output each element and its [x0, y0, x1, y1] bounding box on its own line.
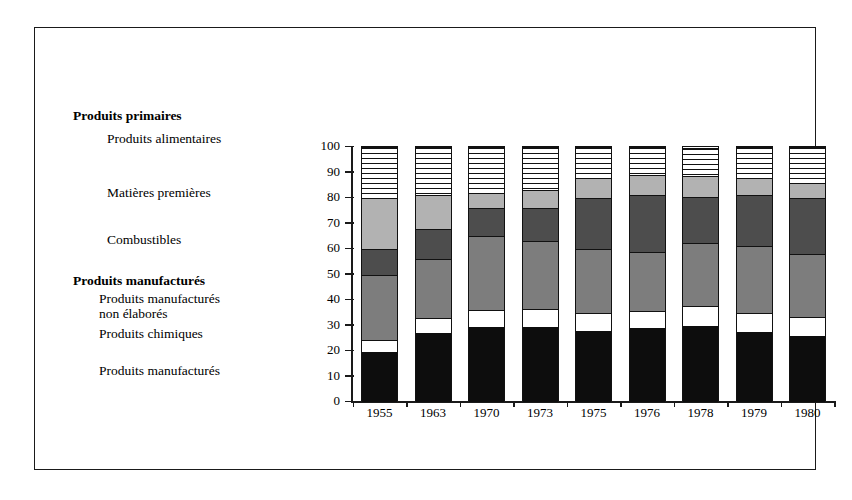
bar-segment-1975-2	[576, 249, 611, 313]
y-axis-tick-label: 60	[306, 241, 340, 254]
bar-segment-1955-2	[362, 275, 397, 340]
bar-segment-1970-5	[469, 147, 504, 193]
y-axis-tick	[345, 299, 354, 301]
bar-segment-1978-0	[683, 326, 718, 403]
legend-item-2: Matières premières	[107, 185, 211, 200]
bar-segment-1980-5	[790, 147, 825, 183]
y-axis-tick-label: 30	[306, 318, 340, 331]
y-axis-tick	[345, 350, 354, 352]
bar-segment-1963-5	[416, 147, 451, 195]
chart-frame: Produits primairesProduits alimentairesM…	[34, 27, 816, 470]
y-axis-tick-label: 10	[306, 369, 340, 382]
bar-segment-1978-1	[683, 306, 718, 325]
bar-segment-1979-1	[737, 313, 772, 332]
legend-item-8: Produits manufacturés	[99, 363, 220, 378]
bar-segment-1979-4	[737, 178, 772, 196]
bar-segment-1975-5	[576, 147, 611, 178]
bar-segment-1978-4	[683, 176, 718, 196]
bar-segment-1975-4	[576, 178, 611, 198]
x-axis-label-1973: 1973	[510, 405, 570, 421]
bar-segment-1973-1	[523, 309, 558, 327]
y-axis-tick	[345, 248, 354, 250]
bar-segment-1973-3	[523, 208, 558, 241]
bar-segment-1976-3	[630, 195, 665, 251]
bar-1980[interactable]	[789, 146, 826, 401]
bar-segment-1955-1	[362, 340, 397, 353]
y-axis-tick-label: 0	[306, 394, 340, 407]
bar-segment-1973-2	[523, 241, 558, 309]
bar-segment-1980-2	[790, 254, 825, 316]
bar-segment-1976-5	[630, 147, 665, 175]
bar-segment-1970-4	[469, 193, 504, 208]
bar-segment-1979-0	[737, 332, 772, 402]
bar-segment-1955-4	[362, 198, 397, 249]
x-axis-label-1955: 1955	[350, 405, 410, 421]
bar-1970[interactable]	[468, 146, 505, 401]
bar-segment-1976-1	[630, 311, 665, 328]
legend-item-5: Produits manufacturés	[99, 291, 220, 306]
y-axis-tick-label: 40	[306, 292, 340, 305]
bar-1973[interactable]	[522, 146, 559, 401]
bar-segment-1976-4	[630, 175, 665, 195]
bar-1978[interactable]	[682, 146, 719, 401]
bar-segment-1975-3	[576, 198, 611, 249]
bar-segment-1963-0	[416, 333, 451, 402]
x-axis-label-1963: 1963	[403, 405, 463, 421]
x-axis-label-1980: 1980	[778, 405, 838, 421]
y-axis-tick	[345, 222, 354, 224]
y-axis-tick	[345, 375, 354, 377]
bar-segment-1980-3	[790, 198, 825, 254]
bar-segment-1973-0	[523, 327, 558, 402]
legend-item-1: Produits alimentaires	[107, 131, 221, 146]
bar-1975[interactable]	[575, 146, 612, 401]
bar-segment-1976-2	[630, 252, 665, 312]
bar-segment-1970-2	[469, 236, 504, 310]
bar-segment-1970-3	[469, 208, 504, 236]
y-axis-tick-label: 100	[306, 139, 340, 152]
y-axis-tick-label: 20	[306, 343, 340, 356]
bar-segment-1963-1	[416, 318, 451, 333]
bar-segment-1979-2	[737, 246, 772, 312]
bar-1976[interactable]	[629, 146, 666, 401]
bar-segment-1973-5	[523, 147, 558, 190]
bar-segment-1963-4	[416, 195, 451, 228]
y-axis-tick-label: 70	[306, 216, 340, 229]
bar-segment-1970-0	[469, 327, 504, 402]
legend-item-0: Produits primaires	[73, 108, 182, 123]
x-axis-tick	[834, 401, 836, 407]
bar-segment-1955-5	[362, 147, 397, 198]
x-axis-label-1975: 1975	[564, 405, 624, 421]
bar-1963[interactable]	[415, 146, 452, 401]
bar-segment-1978-3	[683, 197, 718, 243]
x-axis-label-1970: 1970	[457, 405, 517, 421]
bar-segment-1980-1	[790, 317, 825, 336]
bar-segment-1980-0	[790, 336, 825, 402]
legend-item-7: Produits chimiques	[99, 326, 203, 341]
bar-segment-1975-0	[576, 331, 611, 402]
legend-item-4: Produits manufacturés	[73, 273, 205, 288]
bar-segment-1970-1	[469, 310, 504, 327]
legend-item-3: Combustibles	[107, 232, 181, 247]
bar-segment-1976-0	[630, 328, 665, 402]
bar-segment-1975-1	[576, 313, 611, 331]
legend-item-6: non élaborés	[99, 306, 168, 321]
bar-1979[interactable]	[736, 146, 773, 401]
y-axis-tick	[345, 197, 354, 199]
y-axis-tick	[345, 146, 354, 148]
bar-segment-1979-5	[737, 147, 772, 178]
x-axis-label-1976: 1976	[617, 405, 677, 421]
bar-segment-1963-3	[416, 229, 451, 260]
bar-segment-1979-3	[737, 195, 772, 246]
chart-plot-area: 1009080706050403020100195519631970197319…	[306, 113, 836, 413]
bar-1955[interactable]	[361, 146, 398, 401]
y-axis-tick-label: 50	[306, 267, 340, 280]
y-axis-tick	[345, 324, 354, 326]
bar-segment-1973-4	[523, 190, 558, 208]
y-axis-tick-label: 80	[306, 190, 340, 203]
bar-segment-1980-4	[790, 183, 825, 198]
y-axis-tick	[345, 171, 354, 173]
bar-segment-1963-2	[416, 259, 451, 318]
x-axis-label-1978: 1978	[671, 405, 731, 421]
bar-segment-1978-2	[683, 243, 718, 307]
x-axis-label-1979: 1979	[724, 405, 784, 421]
